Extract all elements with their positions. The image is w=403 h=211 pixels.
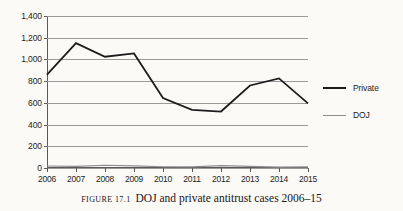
- plot-area: 02004006008001,0001,2001,400 20062007200…: [47, 16, 308, 168]
- x-tick-label: 2015: [299, 174, 317, 184]
- x-tick-label: 2013: [241, 174, 259, 184]
- legend-label-doj: DOJ: [353, 110, 370, 120]
- x-tick-label: 2010: [154, 174, 172, 184]
- figure-caption: FIGURE 17.1DOJ and private antitrust cas…: [0, 188, 403, 206]
- y-tick-label: 600: [28, 98, 42, 108]
- figure-caption-label: FIGURE 17.1: [81, 195, 130, 204]
- y-tick-label: 800: [28, 76, 42, 86]
- legend-swatch-doj-icon: [323, 115, 346, 116]
- legend-item-doj[interactable]: DOJ: [323, 107, 379, 123]
- x-tick-mark: [308, 168, 309, 172]
- series-line-private: [47, 43, 308, 111]
- y-tick-label: 0: [37, 163, 42, 173]
- y-tick-label: 1,400: [21, 11, 42, 21]
- x-tick-label: 2007: [67, 174, 85, 184]
- x-tick-mark: [76, 168, 77, 172]
- x-tick-label: 2011: [183, 174, 200, 184]
- x-tick-mark: [221, 168, 222, 172]
- chart-legend: Private DOJ: [323, 80, 379, 134]
- y-tick-label: 200: [28, 141, 42, 151]
- legend-swatch-private-icon: [323, 87, 346, 89]
- gridline: [47, 168, 308, 169]
- y-tick-label: 1,200: [21, 33, 42, 43]
- x-tick-mark: [192, 168, 193, 172]
- series-lines: [47, 16, 308, 168]
- x-tick-mark: [279, 168, 280, 172]
- figure-caption-text: DOJ and private antitrust cases 2006–15: [136, 192, 322, 204]
- x-tick-mark: [47, 168, 48, 172]
- figure-container: 02004006008001,0001,2001,400 20062007200…: [0, 0, 403, 211]
- x-tick-label: 2012: [212, 174, 230, 184]
- x-tick-mark: [105, 168, 106, 172]
- y-tick-label: 1,000: [21, 54, 42, 64]
- series-line-doj: [47, 165, 308, 167]
- x-tick-mark: [163, 168, 164, 172]
- x-tick-mark: [134, 168, 135, 172]
- legend-item-private[interactable]: Private: [323, 80, 379, 96]
- x-tick-label: 2008: [96, 174, 114, 184]
- y-tick-label: 400: [28, 120, 42, 130]
- x-tick-mark: [250, 168, 251, 172]
- x-tick-label: 2014: [270, 174, 288, 184]
- x-tick-label: 2006: [38, 174, 56, 184]
- x-tick-label: 2009: [125, 174, 143, 184]
- legend-label-private: Private: [353, 83, 379, 93]
